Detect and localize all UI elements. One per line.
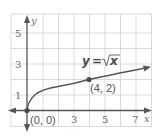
sqrt-function-graph: 5 3 1 3 5 7 y x (0, 0) (4, 2) y = x <box>0 0 158 138</box>
sqrt-curve <box>27 68 145 111</box>
y-tick-3: 3 <box>15 59 21 70</box>
y-axis-label: y <box>30 15 37 26</box>
x-tick-5: 5 <box>102 114 108 125</box>
point-4-2-label: (4, 2) <box>90 82 116 94</box>
curve-arrow-icon <box>143 66 151 72</box>
x-axis <box>8 108 152 114</box>
x-tick-7: 7 <box>132 114 138 125</box>
equation-equals: = <box>92 54 102 68</box>
origin-label: (0, 0) <box>30 114 56 126</box>
x-axis-label: x <box>144 113 150 124</box>
equation-label: y = x <box>82 54 120 68</box>
y-tick-1: 1 <box>15 90 21 101</box>
y-tick-5: 5 <box>15 28 21 39</box>
point-origin <box>24 108 29 113</box>
x-tick-3: 3 <box>71 114 77 125</box>
equation-lhs: y <box>82 54 91 68</box>
equation-radicand: x <box>109 54 119 68</box>
